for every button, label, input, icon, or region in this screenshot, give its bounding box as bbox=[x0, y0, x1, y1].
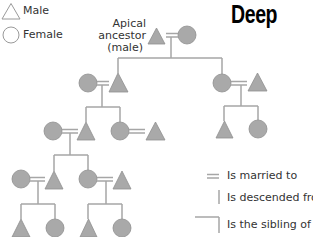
male-legend-triangle-icon bbox=[2, 4, 20, 20]
apical-ancestor-male-icon bbox=[148, 28, 165, 44]
gen5-a-son-male-icon bbox=[12, 219, 30, 237]
gen3-right-son-male-icon bbox=[216, 121, 233, 138]
gen4-b-husband-male-icon bbox=[113, 171, 131, 189]
apical-line-3: (male) bbox=[92, 42, 146, 54]
gen3-right-daughter-female-icon bbox=[249, 120, 267, 138]
gen2-left-son-male-icon bbox=[109, 73, 128, 92]
legend-descended-label: Is descended from bbox=[227, 192, 313, 204]
gen2-left-wife-female-icon bbox=[79, 74, 97, 92]
gen5-b-daughter-female-icon bbox=[113, 219, 131, 237]
legend-married-label: Is married to bbox=[227, 170, 297, 182]
gen2-right-daughter-female-icon bbox=[213, 74, 231, 92]
gen4-a-son-male-icon bbox=[45, 171, 63, 189]
gen3-a-son-male-icon bbox=[77, 122, 95, 140]
apical-ancestor-label: Apical ancestor (male) bbox=[92, 18, 146, 54]
legend-sibling-label: Is the sibling of bbox=[227, 219, 311, 231]
gen5-a-daughter-female-icon bbox=[46, 219, 64, 237]
gen5-b-son-male-icon bbox=[80, 219, 97, 237]
gen3-b-husband-male-icon bbox=[146, 122, 165, 140]
gen3-a-wife-female-icon bbox=[44, 122, 62, 140]
diagram-title: Deep bbox=[231, 0, 277, 28]
legend-male-label: Male bbox=[23, 5, 49, 17]
gen4-b-daughter-female-icon bbox=[79, 170, 97, 188]
kinship-diagram: Deep Male Female Apical ancestor (male) … bbox=[0, 0, 313, 237]
gen2-right-husband-male-icon bbox=[248, 73, 267, 91]
female-legend-circle-icon bbox=[3, 27, 19, 43]
gen4-a-wife-female-icon bbox=[12, 170, 30, 188]
legend-female-label: Female bbox=[23, 29, 63, 41]
gen3-b-daughter-female-icon bbox=[111, 122, 129, 140]
gen1-wife-female-icon bbox=[178, 26, 196, 44]
